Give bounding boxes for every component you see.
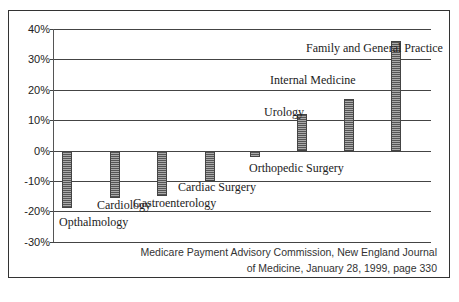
- y-tick-label: -30%: [10, 236, 50, 248]
- y-tick-label: 10%: [10, 114, 50, 126]
- y-tick-label: 40%: [10, 23, 50, 35]
- bar-label: Urology: [264, 106, 304, 119]
- y-tick-label: 20%: [10, 84, 50, 96]
- bar: [391, 41, 401, 150]
- bar: [157, 151, 167, 197]
- bar-label: Cardiac Surgery: [178, 181, 256, 194]
- gridline: [53, 59, 431, 60]
- y-axis: [53, 29, 54, 242]
- bar: [62, 151, 72, 209]
- bar-label: Family and General Practice: [306, 42, 443, 55]
- y-tick-label: -20%: [10, 205, 50, 217]
- gridline: [53, 120, 431, 121]
- bar: [297, 114, 307, 150]
- bar-label: Gastroenterology: [133, 197, 216, 210]
- y-tick: [50, 242, 54, 243]
- y-tick-label: 0%: [10, 145, 50, 157]
- gridline: [53, 242, 431, 243]
- gridline: [53, 90, 431, 91]
- source-line-2: of Medicine, January 28, 1999, page 330: [247, 260, 437, 276]
- gridline: [53, 29, 431, 30]
- bar: [344, 99, 354, 151]
- bar: [110, 151, 120, 198]
- source-line-1: Medicare Payment Advisory Commission, Ne…: [141, 244, 437, 260]
- bar-label: Orthopedic Surgery: [249, 162, 344, 175]
- bar-label: Opthalmology: [59, 216, 128, 229]
- bar: [250, 151, 260, 157]
- y-tick-label: -10%: [10, 175, 50, 187]
- bar: [205, 151, 215, 181]
- bar-label: Internal Medicine: [270, 74, 356, 87]
- y-tick-label: 30%: [10, 53, 50, 65]
